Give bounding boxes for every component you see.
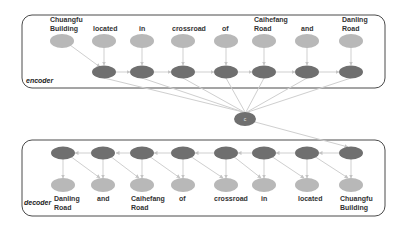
- encoder-token-node: [339, 34, 363, 48]
- token-label: and: [301, 25, 313, 32]
- token-label: and: [97, 195, 109, 202]
- decoder-hidden-node: [339, 147, 363, 160]
- encoder-hidden-node: [295, 66, 319, 79]
- token-label: crossroad: [172, 25, 206, 32]
- encoder-hidden-node: [339, 66, 363, 79]
- decoder-token-node: [295, 178, 319, 192]
- encoder-hidden-node: [252, 66, 276, 79]
- token-label: Chuangfu: [50, 16, 83, 24]
- decoder-hidden-node: [171, 147, 195, 160]
- encoder-token-node: [214, 34, 238, 48]
- token-label: Caihefang: [254, 16, 288, 24]
- token-label: Road: [131, 204, 149, 211]
- decoder-hidden-node: [295, 147, 319, 160]
- encoder-token-node: [252, 34, 276, 48]
- encoder-token-node: [171, 34, 195, 48]
- decoder-token-node: [51, 178, 75, 192]
- decoder-hidden-node: [51, 147, 75, 160]
- token-label: located: [93, 25, 118, 32]
- token-label: Road: [342, 25, 360, 32]
- token-label: of: [222, 25, 229, 32]
- decoder-token-node: [214, 178, 238, 192]
- decoder-token-labels: Danling Road and Caihefang Road of cross…: [54, 195, 373, 212]
- token-label: Danling: [342, 16, 368, 24]
- token-label: crossroad: [214, 195, 248, 202]
- encoder-token-node: [295, 34, 319, 48]
- encoder-input-edges: [70, 45, 351, 67]
- token-label: Road: [54, 204, 72, 211]
- decoder-box: [22, 140, 385, 216]
- token-label: in: [261, 195, 267, 202]
- encoder-hidden-node: [171, 66, 195, 79]
- token-label: Building: [50, 25, 78, 33]
- seq2seq-diagram: encoder decoder: [0, 0, 407, 228]
- decoder-token-node: [339, 178, 363, 192]
- encoder-input-nodes: [50, 34, 363, 48]
- token-label: Road: [254, 25, 272, 32]
- decoder-token-node: [252, 178, 276, 192]
- token-label: of: [179, 195, 186, 202]
- encoder-label: encoder: [26, 77, 55, 84]
- encoder-token-node: [50, 34, 74, 48]
- decoder-token-node: [130, 178, 154, 192]
- decoder-hidden-node: [252, 147, 276, 160]
- token-label: Danling: [54, 195, 80, 203]
- encoder-token-labels: Chuangfu Building located in crossroad o…: [50, 16, 368, 33]
- token-label: in: [139, 25, 145, 32]
- decoder-label: decoder: [24, 199, 53, 206]
- encoder-hidden-node: [130, 66, 154, 79]
- decoder-hidden-node: [91, 147, 115, 160]
- encoder-hidden-node: [92, 66, 116, 79]
- encoder-hidden-node: [214, 66, 238, 79]
- token-label: Building: [340, 204, 368, 212]
- decoder-output-nodes: [51, 178, 363, 192]
- token-label: Caihefang: [131, 195, 165, 203]
- token-label: Chuangfu: [340, 195, 373, 203]
- encoder-token-node: [92, 34, 116, 48]
- decoder-hidden-node: [130, 147, 154, 160]
- token-label: located: [298, 195, 323, 202]
- decoder-token-node: [91, 178, 115, 192]
- encoder-token-node: [130, 34, 154, 48]
- decoder-token-node: [171, 178, 195, 192]
- decoder-output-edges: [63, 159, 351, 178]
- decoder-hidden-node: [214, 147, 238, 160]
